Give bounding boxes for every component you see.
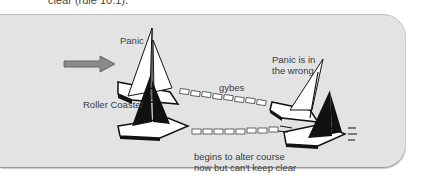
label-panic-wrong-2: the wrong bbox=[272, 65, 314, 76]
wind-arrow-icon bbox=[64, 56, 115, 72]
label-panic-wrong-1: Panic is in bbox=[272, 54, 315, 65]
label-gybes: gybes bbox=[219, 82, 244, 93]
label-alter-2: now but can't keep clear bbox=[194, 162, 296, 173]
label-alter-1: begins to alter course bbox=[194, 151, 285, 162]
label-panic: Panic bbox=[120, 35, 144, 46]
label-roller-coaster: Roller Coaster bbox=[83, 99, 144, 110]
track-lower bbox=[192, 127, 278, 134]
